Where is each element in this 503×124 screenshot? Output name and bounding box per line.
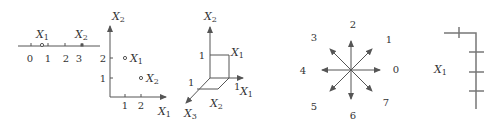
y-axis-label: X2: [111, 10, 125, 24]
point-x1-marker: [40, 43, 43, 46]
unit-square-floor: [197, 78, 229, 89]
y-tick-label-2: 2: [100, 53, 106, 64]
point-x2-marker: [139, 76, 142, 79]
y-tick-label-1: 1: [100, 73, 106, 84]
right-axis-label: X1: [239, 85, 253, 99]
point-x1-marker: [123, 56, 126, 59]
direction-7-arrow: [351, 70, 372, 91]
number-line-panel: [18, 43, 100, 47]
diagram-canvas: X1 X2 0 1 2 3 X2 X1 2 1 1 2 X1 X2 X2 X1 …: [0, 0, 503, 124]
direction-label-5: 5: [311, 101, 317, 112]
direction-5-arrow: [330, 70, 351, 91]
direction-1-arrow: [351, 49, 372, 70]
out-axis-label: X3: [183, 107, 197, 121]
tick-label-0: 0: [27, 53, 33, 64]
right-tick-label: 1: [234, 81, 240, 92]
direction-label-7: 7: [383, 97, 389, 108]
tick-label-2: 2: [63, 53, 69, 64]
chain-path: [444, 27, 484, 109]
direction-3-arrow: [330, 49, 351, 70]
x-tick-label-2: 2: [138, 100, 144, 111]
point-x2-marker: [81, 44, 84, 47]
tick-label-1: 1: [45, 53, 51, 64]
point-x1-label: X1: [230, 46, 244, 60]
x-tick-label-1: 1: [122, 100, 128, 111]
direction-label-6: 6: [350, 110, 356, 121]
point-x2-label: X2: [145, 72, 159, 86]
floor-x2-label: X2: [209, 97, 223, 111]
point-x1-label: X1: [129, 52, 143, 66]
tick-label-3: 3: [76, 53, 82, 64]
chain-label: X1: [433, 63, 447, 77]
direction-label-3: 3: [311, 32, 317, 43]
direction-label-2: 2: [350, 19, 356, 30]
x-axis-label: X1: [157, 105, 171, 119]
point-x2-label: X2: [74, 28, 88, 42]
direction-label-0: 0: [393, 64, 399, 75]
out-tick-label: 1: [188, 77, 194, 88]
direction-label-4: 4: [300, 65, 306, 76]
chain-polyline: [444, 33, 476, 109]
up-axis-label: X2: [203, 10, 217, 24]
unit-square-vertical: [210, 55, 229, 78]
direction-label-1: 1: [386, 34, 392, 45]
up-tick-label: 1: [199, 50, 205, 61]
point-x1-label: X1: [35, 28, 49, 42]
direction-star: [322, 41, 380, 99]
